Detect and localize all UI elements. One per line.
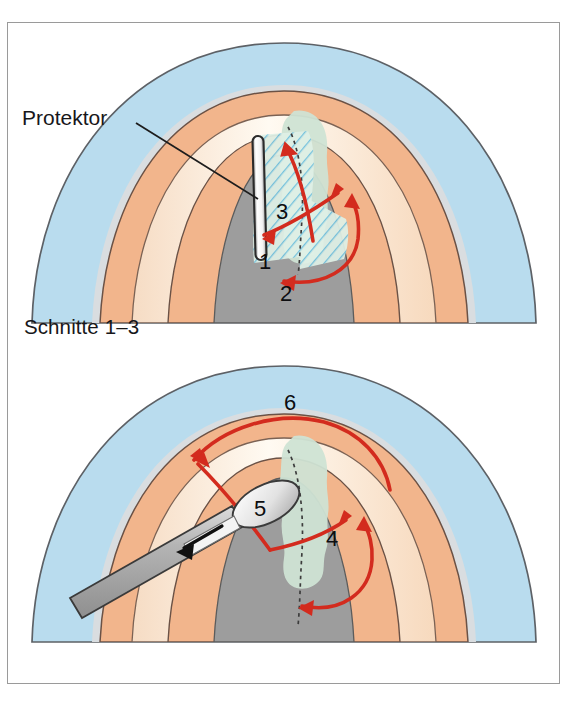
incision-number-1: 1 [259, 249, 271, 274]
panel-bottom-artwork: 6 5 4 [8, 354, 561, 685]
protector-instrument [252, 136, 266, 260]
incision-number-3: 3 [276, 199, 288, 224]
incision-number-6: 6 [284, 390, 296, 415]
incision-number-2: 2 [280, 281, 292, 306]
incision-number-5: 5 [254, 496, 266, 521]
panel-top-artwork: Protektor [8, 23, 561, 354]
figure-frame: Protektor [7, 22, 560, 684]
protektor-label: Protektor [22, 106, 107, 129]
incision-number-4: 4 [326, 526, 338, 551]
panel-top-caption: Schnitte 1–3 [24, 315, 139, 339]
panel-schnitte-4-6: 6 5 4 Schnitte 4–6 [8, 354, 561, 685]
figure-root: Protektor [0, 0, 586, 704]
panel-schnitte-1-3: Protektor [8, 23, 561, 354]
